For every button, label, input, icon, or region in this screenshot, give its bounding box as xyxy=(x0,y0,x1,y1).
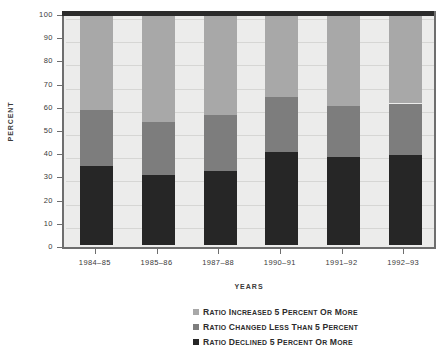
y-axis-tick: 30 xyxy=(0,177,62,178)
bar-group[interactable] xyxy=(265,19,298,245)
bar-group[interactable] xyxy=(204,19,237,245)
y-axis-tick: 20 xyxy=(0,201,62,202)
plot-right-border xyxy=(434,11,436,249)
bar-group[interactable] xyxy=(80,19,113,245)
bar-segment[interactable] xyxy=(204,171,237,245)
legend-item-label: RATIO INCREASED 5 PERCENT OR MORE xyxy=(203,307,358,317)
bar-segment[interactable] xyxy=(265,13,298,97)
y-axis-tick: 70 xyxy=(0,85,62,86)
y-axis-tick-label: 20 xyxy=(44,196,53,205)
y-axis-tick-label: 40 xyxy=(44,149,53,158)
legend-item[interactable]: RATIO CHANGED LESS THAN 5 PERCENT xyxy=(193,320,441,334)
bar-segment[interactable] xyxy=(80,110,113,166)
stacked-bar-chart: PERCENT 0102030405060708090100 1984–8519… xyxy=(0,0,444,350)
bar-group[interactable] xyxy=(327,19,360,245)
y-axis-tick-label: 100 xyxy=(39,10,53,19)
x-axis-tick-mark xyxy=(403,249,404,254)
bar-group[interactable] xyxy=(142,19,175,245)
y-axis-ticks: 0102030405060708090100 xyxy=(0,0,62,260)
legend-swatch-icon xyxy=(193,324,199,330)
bar-segment[interactable] xyxy=(142,175,175,245)
bar-segment[interactable] xyxy=(389,104,422,155)
y-axis-tick-label: 60 xyxy=(44,103,53,112)
y-axis-tick: 50 xyxy=(0,131,62,132)
legend-item-label: RATIO DECLINED 5 PERCENT OR MORE xyxy=(203,337,353,347)
legend-item[interactable]: RATIO DECLINED 5 PERCENT OR MORE xyxy=(193,335,441,349)
plot-area xyxy=(62,15,436,249)
bar-segment[interactable] xyxy=(389,155,422,245)
y-axis-tick: 10 xyxy=(0,224,62,225)
legend-item-label: RATIO CHANGED LESS THAN 5 PERCENT xyxy=(203,322,358,332)
y-axis-tick: 80 xyxy=(0,61,62,62)
y-axis-tick-label: 90 xyxy=(44,33,53,42)
y-axis-tick: 40 xyxy=(0,154,62,155)
x-axis-title: YEARS xyxy=(62,283,436,290)
legend-item[interactable]: RATIO INCREASED 5 PERCENT OR MORE xyxy=(193,305,441,319)
bar-segment[interactable] xyxy=(142,122,175,175)
bars-layer xyxy=(66,19,434,245)
y-axis-tick-label: 80 xyxy=(44,56,53,65)
bar-segment[interactable] xyxy=(80,166,113,245)
y-axis-tick: 90 xyxy=(0,38,62,39)
bar-segment[interactable] xyxy=(265,152,298,245)
x-axis-tick-label: 1985–86 xyxy=(141,258,173,267)
y-axis-tick-label: 30 xyxy=(44,172,53,181)
x-axis-tick-mark xyxy=(218,249,219,254)
bar-segment[interactable] xyxy=(389,13,422,103)
x-axis-ticks: 1984–851985–861987–881990–911991–921992–… xyxy=(62,249,436,273)
y-axis-tick-label: 70 xyxy=(44,80,53,89)
x-axis-tick-mark xyxy=(95,249,96,254)
bar-segment[interactable] xyxy=(204,13,237,115)
x-axis-tick-label: 1987–88 xyxy=(202,258,234,267)
y-axis-tick: 60 xyxy=(0,108,62,109)
bar-segment[interactable] xyxy=(80,13,113,110)
x-axis-tick-label: 1990–91 xyxy=(264,258,296,267)
x-axis-tick-mark xyxy=(280,249,281,254)
y-axis-tick-label: 10 xyxy=(44,219,53,228)
y-axis-tick: 100 xyxy=(0,15,62,16)
bar-group[interactable] xyxy=(389,19,422,245)
bar-segment[interactable] xyxy=(327,106,360,157)
y-axis-tick-label: 50 xyxy=(44,126,53,135)
y-axis-tick-label: 0 xyxy=(48,242,53,251)
legend-swatch-icon xyxy=(193,339,199,345)
bar-segment[interactable] xyxy=(327,13,360,106)
x-axis-tick-label: 1992–93 xyxy=(387,258,419,267)
x-axis-tick-mark xyxy=(157,249,158,254)
x-axis-tick-label: 1991–92 xyxy=(326,258,358,267)
bar-segment[interactable] xyxy=(327,157,360,245)
chart-legend: RATIO INCREASED 5 PERCENT OR MORERATIO C… xyxy=(193,305,441,350)
x-axis-tick-label: 1984–85 xyxy=(79,258,111,267)
bar-segment[interactable] xyxy=(204,115,237,171)
legend-swatch-icon xyxy=(193,309,199,315)
plot-frame xyxy=(62,11,436,249)
bar-segment[interactable] xyxy=(142,13,175,122)
plot-top-border xyxy=(62,11,436,16)
x-axis-tick-mark xyxy=(342,249,343,254)
y-axis-tick: 0 xyxy=(0,247,62,248)
bar-segment[interactable] xyxy=(265,97,298,153)
